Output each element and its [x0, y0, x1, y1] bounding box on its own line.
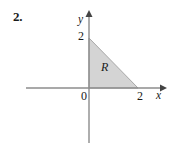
x-axis-tick-label-2: 2	[137, 90, 143, 102]
y-axis-label: y	[78, 14, 83, 26]
y-axis-arrow-icon	[86, 10, 93, 17]
figure-container: 2. y x 2 2 0 R	[0, 0, 172, 150]
shaded-region-R	[89, 38, 138, 88]
x-axis-label: x	[156, 90, 161, 102]
region-label-R: R	[101, 61, 108, 73]
origin-label: 0	[81, 90, 87, 102]
coordinate-plot	[0, 0, 172, 150]
y-axis-tick-label-2: 2	[78, 30, 84, 42]
